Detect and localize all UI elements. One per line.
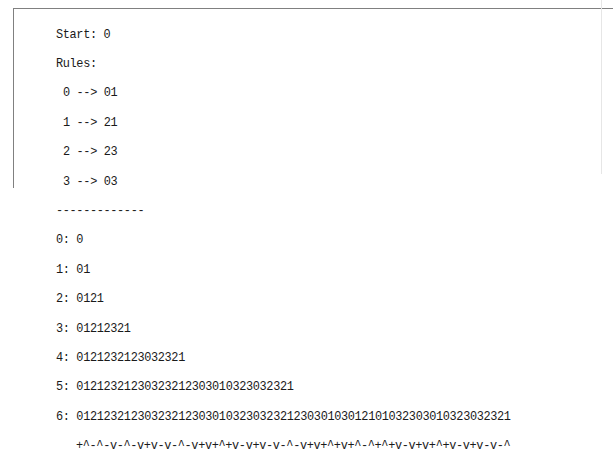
rule-1: 1 --> 21 xyxy=(56,119,511,129)
generation-1: 1: 01 xyxy=(56,266,511,276)
generation-3: 3: 01212321 xyxy=(56,325,511,335)
start-line: Start: 0 xyxy=(56,31,511,41)
rules-heading: Rules: xyxy=(56,60,511,70)
rule-0: 0 --> 01 xyxy=(56,89,511,99)
generation-4: 4: 0121232123032321 xyxy=(56,354,511,364)
generation-5: 5: 01212321230323212303010323032321 xyxy=(56,383,511,393)
symbol-line: +^-^-v-^-v+v-v-^-v+v+^+v-v+v-v-^-v+v+^+v… xyxy=(56,442,511,452)
generation-2: 2: 0121 xyxy=(56,295,511,305)
generation-0: 0: 0 xyxy=(56,236,511,246)
lsystem-output: Start: 0 Rules: 0 --> 01 1 --> 21 2 --> … xyxy=(56,11,511,453)
separator: ------------- xyxy=(56,207,511,217)
generation-6: 6: 0121232123032321230301032303232123030… xyxy=(56,413,511,423)
rule-3: 3 --> 03 xyxy=(56,178,511,188)
rule-2: 2 --> 23 xyxy=(56,148,511,158)
scrollbar-edge xyxy=(601,0,602,174)
